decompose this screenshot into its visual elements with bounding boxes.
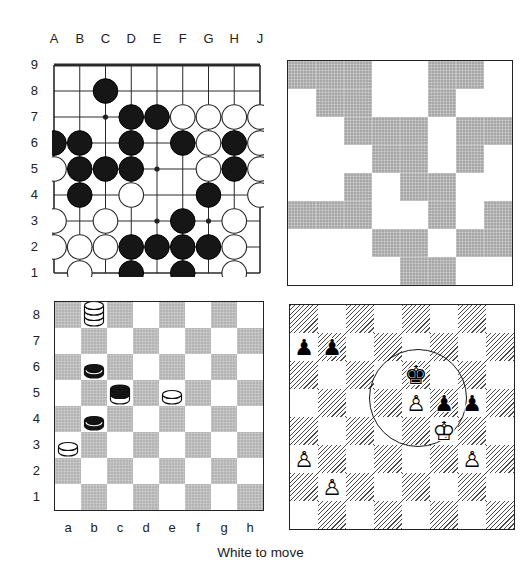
chess-square-dark — [346, 305, 374, 333]
chess-square-dark — [346, 473, 374, 501]
checker-piece — [85, 365, 104, 379]
checkers-row-label: 2 — [24, 464, 40, 478]
chess-piece-black-pawn: ♟ — [458, 389, 486, 417]
checkers-row-label: 8 — [24, 308, 40, 322]
pattern-cell-gray — [372, 145, 400, 173]
go-row-label: 3 — [20, 214, 38, 228]
go-stone-black — [170, 235, 195, 260]
pattern-cell-gray — [456, 117, 484, 145]
go-col-label: F — [174, 32, 192, 46]
chess-square-dark — [318, 501, 346, 529]
go-stone-white — [67, 235, 92, 260]
checkers-row-label: 7 — [24, 334, 40, 348]
go-stone-black — [93, 157, 118, 182]
checkers-row-label: 4 — [24, 412, 40, 426]
chess-square-dark — [290, 305, 318, 333]
chess-piece-black-king: ♚ — [402, 361, 430, 389]
chess-piece-white-pawn: ♙ — [402, 389, 430, 417]
pattern-cell-gray — [484, 229, 512, 257]
chess-square-dark — [402, 473, 430, 501]
go-stone-white — [222, 105, 247, 130]
go-stone-black — [170, 131, 195, 156]
chess-square-dark — [486, 333, 514, 361]
checkers-col-label: d — [137, 521, 155, 535]
go-stone-white — [222, 261, 247, 277]
chess-square-dark — [290, 473, 318, 501]
checkers-col-label: c — [111, 521, 129, 535]
go-stone-black — [67, 157, 92, 182]
checkers-squares — [54, 301, 264, 511]
go-stone-black — [196, 235, 221, 260]
chess-square-dark — [486, 501, 514, 529]
pattern-cell-gray — [344, 117, 372, 145]
go-star-point — [154, 166, 159, 171]
checkers-col-label: g — [215, 521, 233, 535]
go-stone-black — [119, 131, 144, 156]
caption: White to move — [0, 545, 521, 560]
chess-piece-white-king: ♔ — [430, 417, 458, 445]
chess-square-dark — [318, 445, 346, 473]
go-stone-white — [248, 157, 264, 182]
go-grid-layer — [52, 63, 264, 277]
pattern-cell-gray — [456, 229, 484, 257]
go-stone-white — [248, 183, 264, 208]
go-stone-black — [170, 209, 195, 234]
pattern-cell-gray — [288, 61, 316, 89]
pattern-cell-gray — [428, 89, 456, 117]
pattern-cell-gray — [344, 89, 372, 117]
go-stone-black — [119, 157, 144, 182]
checkers-row-label: 3 — [24, 438, 40, 452]
tile-pattern-diagram — [287, 60, 513, 286]
go-star-point — [206, 218, 211, 223]
checker-piece — [85, 417, 104, 431]
pattern-cell-gray — [344, 173, 372, 201]
chess-square-dark — [486, 389, 514, 417]
go-row-label: 1 — [20, 266, 38, 280]
chess-square-dark — [430, 501, 458, 529]
go-stone-white — [67, 261, 92, 277]
go-star-point — [103, 114, 108, 119]
checkers-col-label: b — [85, 521, 103, 535]
go-stone-black — [93, 79, 118, 104]
go-stone-white — [196, 131, 221, 156]
chess-square-dark — [458, 305, 486, 333]
pattern-cell-gray — [456, 145, 484, 173]
pattern-cell-gray — [372, 117, 400, 145]
go-row-label: 7 — [20, 110, 38, 124]
go-col-label: G — [200, 32, 218, 46]
go-row-label: 2 — [20, 240, 38, 254]
go-col-label: A — [45, 32, 63, 46]
pattern-cell-gray — [428, 61, 456, 89]
go-stone-white — [196, 105, 221, 130]
go-col-label: D — [122, 32, 140, 46]
chess-square-dark — [430, 445, 458, 473]
game-figure-page: ABCDEFGHJ987654321 abcdefgh87654321 ♟♟♚♙… — [0, 0, 521, 576]
go-row-label: 4 — [20, 188, 38, 202]
go-stone-black — [145, 235, 170, 260]
pattern-cell-gray — [400, 145, 428, 173]
chess-square-dark — [374, 445, 402, 473]
chess-square-dark — [458, 473, 486, 501]
go-stone-black — [222, 157, 247, 182]
go-stone-black — [170, 261, 195, 277]
pattern-cell-gray — [428, 173, 456, 201]
chess-square-dark — [290, 417, 318, 445]
go-stone-white — [119, 183, 144, 208]
checker-piece — [111, 385, 130, 404]
pattern-cell-gray — [372, 229, 400, 257]
pattern-cell-gray — [400, 173, 428, 201]
checkers-col-label: e — [163, 521, 181, 535]
pattern-cell-gray — [484, 117, 512, 145]
pattern-cell-gray — [288, 201, 316, 229]
go-stone-black — [52, 131, 66, 156]
go-stone-white — [248, 131, 264, 156]
go-col-label: J — [251, 32, 269, 46]
chess-board-diagram: ♟♟♚♙♟♟♔♙♙♙ — [289, 304, 515, 530]
chess-square-dark — [318, 389, 346, 417]
go-stone-white — [52, 157, 66, 182]
go-stone-white — [52, 235, 66, 260]
go-grid — [52, 63, 264, 277]
chess-square-dark — [402, 305, 430, 333]
pattern-cell-gray — [316, 89, 344, 117]
go-row-label: 9 — [20, 58, 38, 72]
